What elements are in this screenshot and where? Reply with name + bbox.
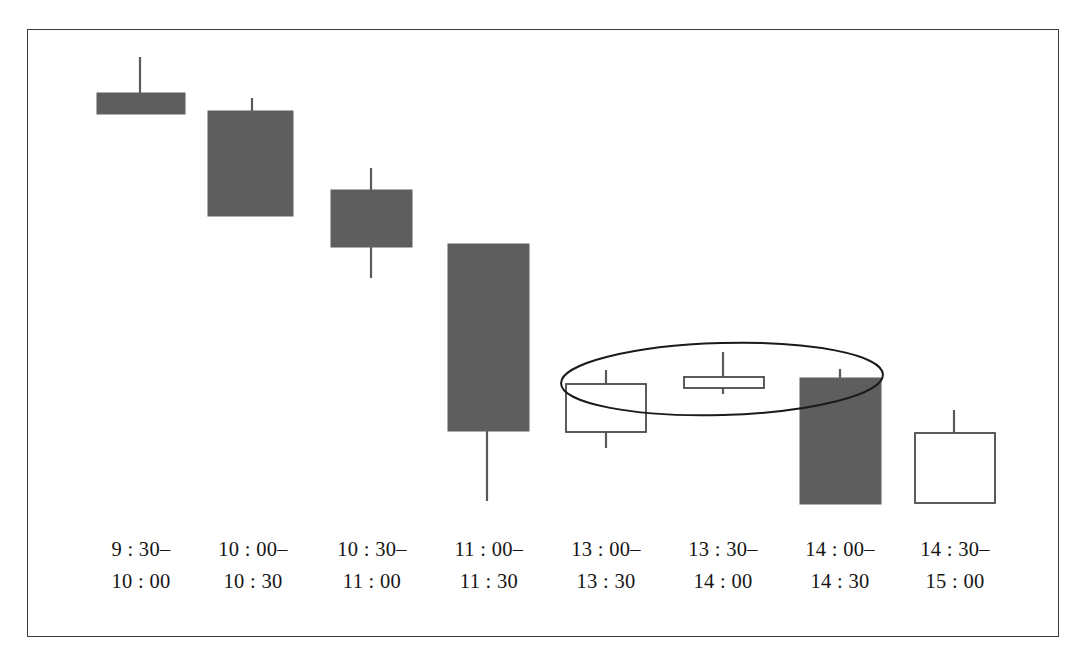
candle-body <box>208 111 293 216</box>
candle-body <box>684 377 764 388</box>
x-label-line1-10:00-10:30: 10 : 00– <box>218 538 288 560</box>
figure-page: 9 : 30–10 : 0010 : 00–10 : 3010 : 30–11 … <box>0 0 1088 664</box>
x-label-line1-9:30-10:00: 9 : 30– <box>111 538 170 560</box>
candle-10:00-10:30[interactable] <box>208 98 293 216</box>
candle-13:00-13:30[interactable] <box>566 370 646 448</box>
candle-body <box>800 378 881 504</box>
candle-body <box>915 433 995 503</box>
x-label-line1-14:00-14:30: 14 : 00– <box>805 538 875 560</box>
x-label-line2-10:30-11:00: 11 : 00 <box>343 570 401 592</box>
candle-body <box>331 190 412 247</box>
x-label-line1-11:00-11:30: 11 : 00– <box>455 538 524 560</box>
x-label-line2-14:30-15:00: 15 : 00 <box>925 570 984 592</box>
x-label-line1-14:30-15:00: 14 : 30– <box>920 538 990 560</box>
x-axis-labels: 9 : 30–10 : 0010 : 00–10 : 3010 : 30–11 … <box>111 538 990 592</box>
candle-body <box>97 93 185 114</box>
x-label-line1-13:00-13:30: 13 : 00– <box>571 538 641 560</box>
candle-10:30-11:00[interactable] <box>331 168 412 278</box>
candle-9:30-10:00[interactable] <box>97 57 185 114</box>
x-label-line1-10:30-11:00: 10 : 30– <box>337 538 407 560</box>
candle-11:00-11:30[interactable] <box>448 244 529 501</box>
x-label-line1-13:30-14:00: 13 : 30– <box>688 538 758 560</box>
candlestick-chart: 9 : 30–10 : 0010 : 00–10 : 3010 : 30–11 … <box>0 0 1088 664</box>
x-label-line2-9:30-10:00: 10 : 00 <box>111 570 170 592</box>
candle-14:30-15:00[interactable] <box>915 410 995 503</box>
x-label-line2-13:00-13:30: 13 : 30 <box>576 570 635 592</box>
x-label-line2-14:00-14:30: 14 : 30 <box>810 570 869 592</box>
x-label-line2-10:00-10:30: 10 : 30 <box>223 570 282 592</box>
candle-body <box>448 244 529 431</box>
x-label-line2-11:00-11:30: 11 : 30 <box>460 570 518 592</box>
candles-layer <box>97 57 995 504</box>
candle-13:30-14:00[interactable] <box>684 352 764 394</box>
x-label-line2-13:30-14:00: 14 : 00 <box>693 570 752 592</box>
